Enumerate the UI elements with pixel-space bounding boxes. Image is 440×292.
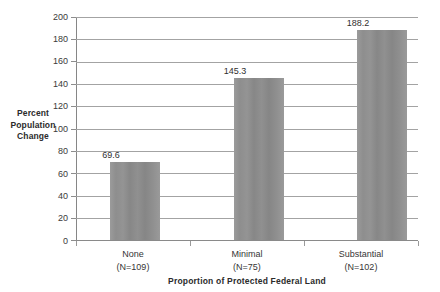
bar-value-substantial: 188.2	[328, 18, 388, 28]
x-category-minimal-name: Minimal	[231, 249, 262, 259]
x-category-substantial-name: Substantial	[339, 249, 384, 259]
y-tick-label-100: 100	[40, 125, 68, 134]
bar-chart: Percent Population Change 200 180 160 14…	[0, 0, 440, 292]
y-tick-label-20: 20	[40, 214, 68, 223]
x-axis-title: Proportion of Protected Federal Land	[76, 276, 418, 286]
bar-none	[110, 162, 160, 240]
y-tick-label-160: 160	[40, 57, 68, 66]
y-tick-label-140: 140	[40, 80, 68, 89]
x-category-none: None (N=109)	[76, 248, 190, 274]
x-category-substantial: Substantial (N=102)	[304, 248, 418, 274]
y-tick-label-40: 40	[40, 192, 68, 201]
bar-value-none: 69.6	[81, 150, 141, 160]
x-tick-mark-2	[304, 241, 305, 246]
x-tick-mark-1	[190, 241, 191, 246]
y-tick-label-0: 0	[40, 237, 68, 246]
plot-area	[76, 17, 418, 240]
y-tick-label-200: 200	[40, 13, 68, 22]
x-category-none-count: (N=109)	[76, 261, 190, 274]
y-axis-tick-labels: 200 180 160 140 120 100 80 60 40 20 0	[36, 0, 68, 292]
bar-minimal	[234, 78, 284, 240]
x-axis-line	[76, 240, 418, 241]
x-category-none-name: None	[122, 249, 144, 259]
x-category-minimal: Minimal (N=75)	[190, 248, 304, 274]
x-category-substantial-count: (N=102)	[304, 261, 418, 274]
bar-substantial	[357, 30, 407, 240]
y-tick-label-120: 120	[40, 102, 68, 111]
x-category-minimal-count: (N=75)	[190, 261, 304, 274]
bar-value-minimal: 145.3	[205, 66, 265, 76]
y-tick-label-60: 60	[40, 170, 68, 179]
y-tick-label-80: 80	[40, 147, 68, 156]
x-tick-mark-end	[418, 241, 419, 246]
x-tick-mark-start	[76, 241, 77, 246]
y-tick-label-180: 180	[40, 35, 68, 44]
